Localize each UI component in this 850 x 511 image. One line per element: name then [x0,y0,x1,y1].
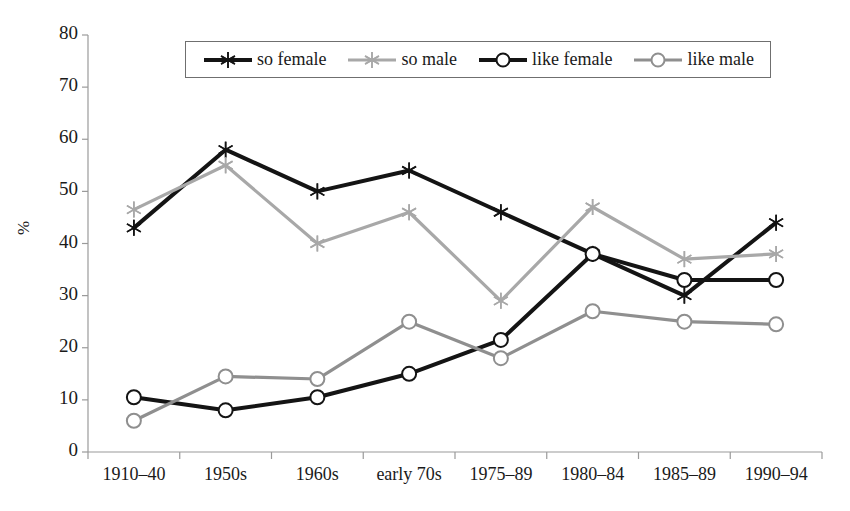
data-point-marker-circle [494,333,508,347]
data-point-marker-circle [497,53,510,66]
data-point-marker-star [127,202,141,218]
axis-lines [82,35,822,459]
legend-star-icon [202,51,254,69]
legend-circle-icon [477,51,529,69]
data-point-marker-circle [402,315,416,329]
series-like-female [127,247,783,417]
legend-label: like female [532,49,612,70]
data-point-marker-circle [677,315,691,329]
legend: so femaleso malelike femalelike male [185,41,771,78]
data-point-marker-circle [219,369,233,383]
data-point-marker-star [494,204,508,220]
data-point-marker-circle [310,372,324,386]
data-point-marker-circle [586,304,600,318]
data-point-marker-circle [769,273,783,287]
legend-label: so male [401,49,457,70]
data-point-marker-circle [586,247,600,261]
data-point-marker-circle [494,351,508,365]
data-point-marker-circle [402,367,416,381]
legend-star-icon [346,51,398,69]
legend-entry-so-male[interactable]: so male [346,49,457,70]
legend-circle-icon [632,51,684,69]
data-point-marker-circle [219,403,233,417]
data-point-marker-circle [127,414,141,428]
legend-label: like male [687,49,753,70]
data-point-marker-circle [310,390,324,404]
data-point-marker-circle [127,390,141,404]
legend-entry-so-female[interactable]: so female [202,49,326,70]
series-layer [127,142,783,428]
data-point-marker-circle [652,53,665,66]
data-point-marker-circle [769,317,783,331]
legend-label: so female [257,49,326,70]
legend-entry-like-male[interactable]: like male [632,49,753,70]
data-point-marker-circle [677,273,691,287]
legend-entry-like-female[interactable]: like female [477,49,612,70]
line-chart: % 80706050403020100 1910–401950s1960sear… [0,0,850,511]
